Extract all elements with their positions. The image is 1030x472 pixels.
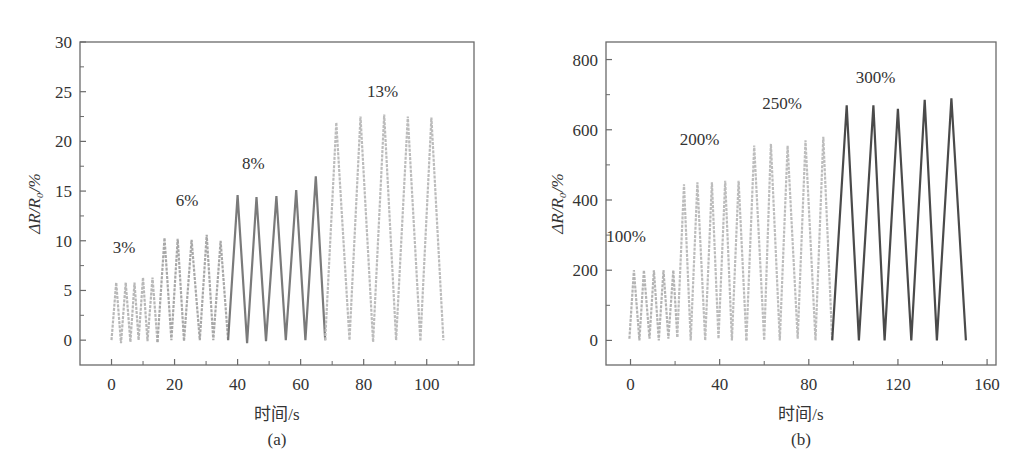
x-tick-label: 0 (107, 375, 116, 394)
y-tick-label: 25 (55, 83, 72, 102)
y-tick-label: 200 (573, 261, 599, 280)
series-line-13pct (325, 115, 443, 343)
strain-annotation: 8% (242, 154, 265, 173)
series-line-200pct (677, 181, 746, 341)
x-tick-label: 40 (711, 375, 728, 394)
strain-annotation: 100% (606, 227, 646, 246)
x-tick-label: 60 (292, 375, 309, 394)
series-line-6pct (158, 235, 229, 342)
x-tick-label: 80 (800, 375, 817, 394)
x-axis-title: 时间/s (254, 405, 299, 424)
strain-annotation: 200% (680, 130, 720, 149)
series-line-100pct (629, 270, 677, 340)
y-tick-label: 30 (55, 33, 72, 52)
x-tick-label: 40 (229, 375, 246, 394)
y-tick-label: 0 (590, 331, 599, 350)
x-axis-title: 时间/s (778, 405, 823, 424)
y-tick-label: 20 (55, 132, 72, 151)
y-tick-label: 5 (64, 281, 73, 300)
y-tick-label: 10 (55, 232, 72, 251)
x-tick-label: 120 (885, 375, 911, 394)
panel-label: (a) (268, 430, 287, 449)
chart-panel-a: 0510152025300204060801003%6%8%13%时间/sΔR/… (25, 33, 474, 449)
panel-label: (b) (791, 430, 811, 449)
y-tick-label: 800 (573, 51, 599, 70)
strain-annotation: 250% (762, 94, 802, 113)
x-tick-label: 0 (626, 375, 635, 394)
series-line-8pct (228, 176, 325, 343)
y-axis-title: ΔR/R₀/% (25, 173, 44, 234)
chart-panel-b: 020040060080004080120160100%200%250%300%… (548, 42, 1000, 449)
y-tick-label: 400 (573, 191, 599, 210)
strain-annotation: 300% (856, 68, 896, 87)
figure: 0510152025300204060801003%6%8%13%时间/sΔR/… (0, 0, 1030, 472)
series-line-3pct (112, 278, 158, 344)
x-tick-label: 20 (166, 375, 183, 394)
strain-annotation: 3% (113, 238, 136, 257)
series-line-250pct (746, 137, 832, 341)
x-tick-label: 100 (414, 375, 440, 394)
strain-annotation: 13% (367, 82, 398, 101)
y-tick-label: 15 (55, 182, 72, 201)
y-axis-title: ΔR/R₀/% (548, 173, 567, 234)
series-line-300pct (832, 98, 966, 340)
y-tick-label: 600 (573, 121, 599, 140)
x-tick-label: 160 (974, 375, 1000, 394)
strain-annotation: 6% (176, 191, 199, 210)
y-tick-label: 0 (64, 331, 73, 350)
x-tick-label: 80 (355, 375, 372, 394)
